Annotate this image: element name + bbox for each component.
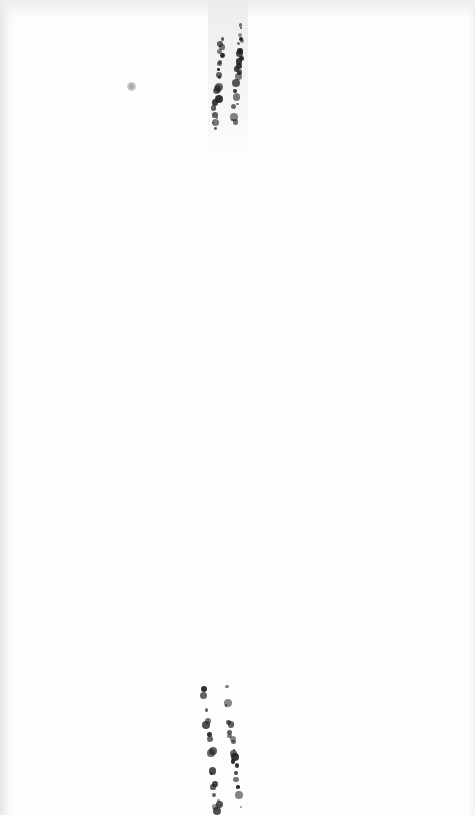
speck bbox=[210, 772, 213, 775]
speck bbox=[240, 39, 244, 43]
speck bbox=[207, 749, 215, 757]
speck bbox=[210, 784, 215, 789]
speck bbox=[235, 763, 239, 767]
speck bbox=[221, 37, 225, 41]
speck bbox=[217, 68, 220, 71]
speck bbox=[202, 721, 210, 729]
grey-spot bbox=[127, 82, 136, 91]
speck bbox=[211, 105, 217, 111]
speck bbox=[240, 27, 242, 29]
speck bbox=[212, 793, 216, 797]
speck bbox=[236, 785, 240, 789]
speck bbox=[236, 103, 239, 106]
speck bbox=[233, 119, 238, 124]
speck bbox=[213, 88, 220, 95]
speck bbox=[207, 736, 213, 742]
speck bbox=[213, 807, 221, 815]
speck bbox=[235, 791, 242, 798]
speck bbox=[225, 685, 229, 689]
speck bbox=[220, 53, 225, 58]
speck bbox=[218, 75, 221, 78]
speck bbox=[233, 777, 238, 782]
speck bbox=[233, 93, 240, 100]
